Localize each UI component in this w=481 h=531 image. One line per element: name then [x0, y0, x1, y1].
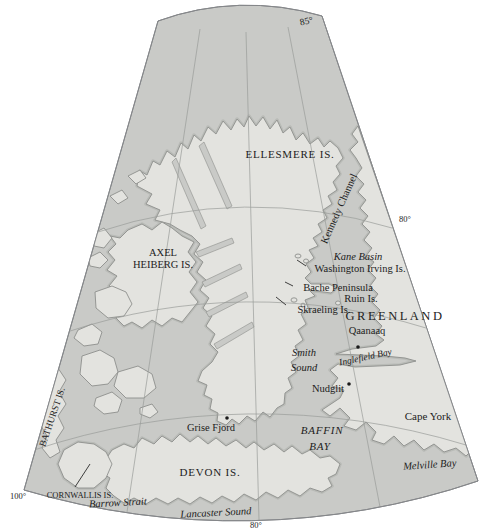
smith-sound-label-line1: Smith [292, 347, 316, 358]
ruin-island-label: Ruin Is. [344, 293, 377, 304]
lat-80-label: 80° [399, 214, 411, 224]
lon-80-label: 80° [250, 520, 262, 530]
cape-york-label: Cape York [405, 410, 452, 422]
grise-fjord-label: Grise Fjord [187, 422, 236, 433]
devon-label: DEVON IS. [180, 466, 241, 478]
arctic-region-map: 85° 80° 100° 80° ELLESMERE IS. AXEL HEIB… [0, 0, 481, 531]
grise-fjord-dot [225, 416, 229, 420]
lon-100-label: 100° [10, 491, 26, 501]
smith-sound-label-line2: Sound [291, 362, 318, 373]
skraeling-island-label: Skraeling Is. [297, 304, 350, 315]
kane-basin-label: Kane Basin [333, 251, 383, 262]
nudglit-label: Nudglit [312, 383, 344, 394]
axel-heiberg-label-line1: AXEL [149, 247, 177, 258]
greenland-label: GREENLAND [346, 309, 445, 323]
qaanaaq-dot [356, 345, 360, 349]
nudglit-dot [347, 382, 351, 386]
axel-heiberg-label-line2: HEIBERG IS. [133, 259, 193, 270]
baffin-bay-label-line1: BAFFIN [301, 424, 344, 436]
map-canvas: 85° 80° 100° 80° ELLESMERE IS. AXEL HEIB… [0, 0, 481, 531]
washington-irving-label: Washington Irving Is. [314, 263, 405, 274]
bache-peninsula-label: Bache Peninsula [303, 282, 373, 293]
baffin-bay-label-line2: BAY [309, 440, 331, 452]
ellesmere-label: ELLESMERE IS. [245, 148, 334, 160]
qaanaaq-label: Qaanaaq [349, 325, 386, 336]
